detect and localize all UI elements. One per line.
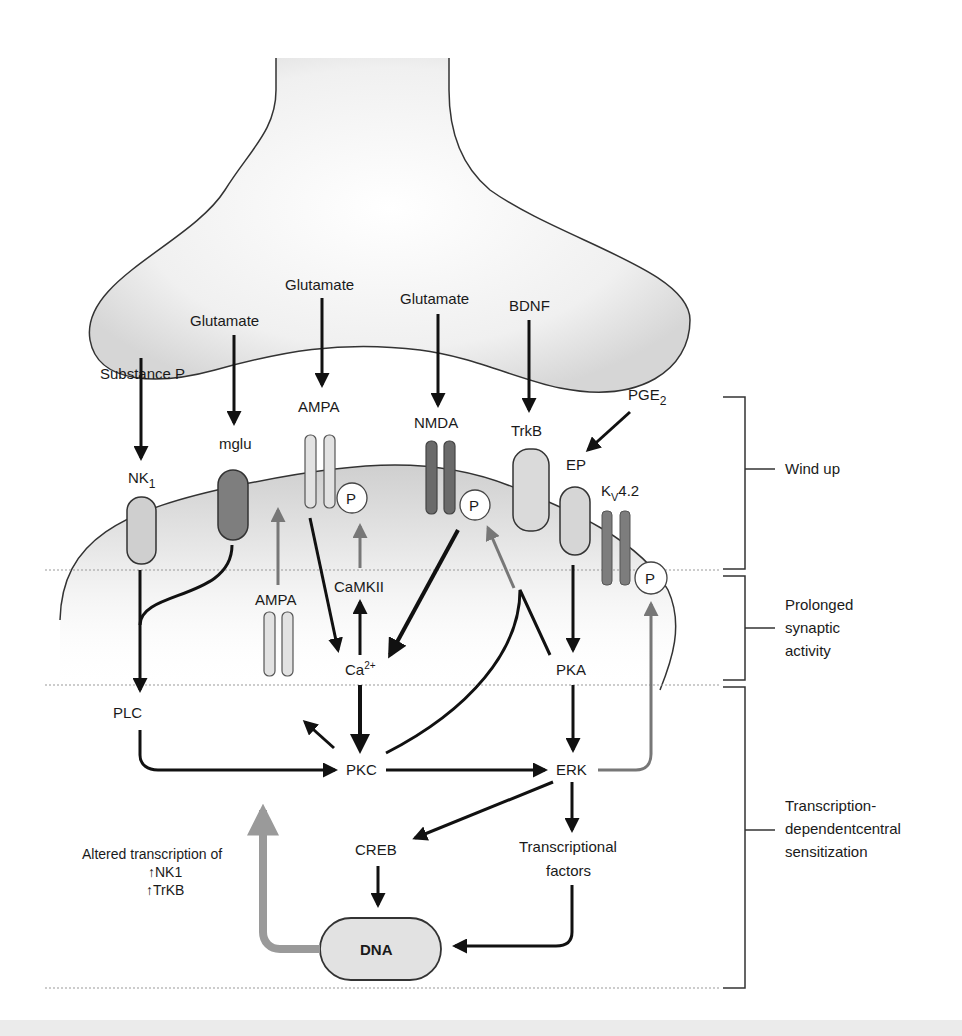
creb-label: CREB bbox=[355, 841, 397, 858]
erk-label: ERK bbox=[556, 761, 587, 778]
central-sensitization-diagram: Wind up Prolonged synaptic activity Tran… bbox=[0, 0, 962, 1036]
ligand-substance-p: Substance P bbox=[100, 365, 185, 382]
phase-label-transcription-2: dependentcentral bbox=[785, 820, 901, 837]
bottom-band bbox=[0, 1020, 962, 1036]
phase-brackets bbox=[723, 397, 775, 988]
phase-label-transcription-1: Transcription- bbox=[785, 797, 876, 814]
nk1-label: NK1 bbox=[128, 469, 156, 491]
tf-label-2: factors bbox=[546, 862, 591, 879]
phase-label-transcription-3: sensitization bbox=[785, 843, 868, 860]
dna-feedback-arrow bbox=[263, 810, 320, 949]
phase-label-prolonged-2: synaptic bbox=[785, 619, 841, 636]
ligand-bdnf: BDNF bbox=[509, 297, 550, 314]
ep-receptor bbox=[560, 487, 590, 555]
mglu-label: mglu bbox=[219, 435, 252, 452]
kv42-label: KV4.2 bbox=[601, 482, 639, 503]
ligand-glutamate-ampa: Glutamate bbox=[285, 276, 354, 293]
camkii-label: CaMKII bbox=[334, 578, 384, 595]
altered-transcription-trkb: ↑TrKB bbox=[146, 882, 184, 898]
mglu-receptor bbox=[218, 470, 248, 540]
nmda-phospho-label: P bbox=[469, 497, 479, 514]
tf-label-1: Transcriptional bbox=[519, 838, 617, 855]
pkc-label: PKC bbox=[346, 761, 377, 778]
trkb-receptor bbox=[513, 449, 549, 531]
kv42-phospho-label: P bbox=[645, 570, 655, 587]
nmda-label: NMDA bbox=[414, 414, 458, 431]
ampa-phospho-label: P bbox=[346, 490, 356, 507]
trkb-label: TrkB bbox=[511, 422, 542, 439]
phase-label-wind-up: Wind up bbox=[785, 460, 840, 477]
nk1-receptor bbox=[127, 497, 156, 564]
ampa-internal-label: AMPA bbox=[255, 591, 296, 608]
plc-label: PLC bbox=[113, 704, 142, 721]
altered-transcription-nk1: ↑NK1 bbox=[148, 864, 182, 880]
ligand-glutamate-mglu: Glutamate bbox=[190, 312, 259, 329]
presynaptic-terminal bbox=[89, 58, 690, 392]
phase-label-prolonged-3: activity bbox=[785, 642, 831, 659]
phase-label-prolonged-1: Prolonged bbox=[785, 596, 853, 613]
pka-label: PKA bbox=[556, 661, 586, 678]
dna-label: DNA bbox=[360, 941, 393, 958]
ligand-glutamate-nmda: Glutamate bbox=[400, 290, 469, 307]
ligand-pge2: PGE2 bbox=[628, 386, 667, 408]
altered-transcription-title: Altered transcription of bbox=[82, 846, 222, 862]
ampa-membrane-label: AMPA bbox=[298, 398, 339, 415]
ep-label: EP bbox=[566, 456, 586, 473]
